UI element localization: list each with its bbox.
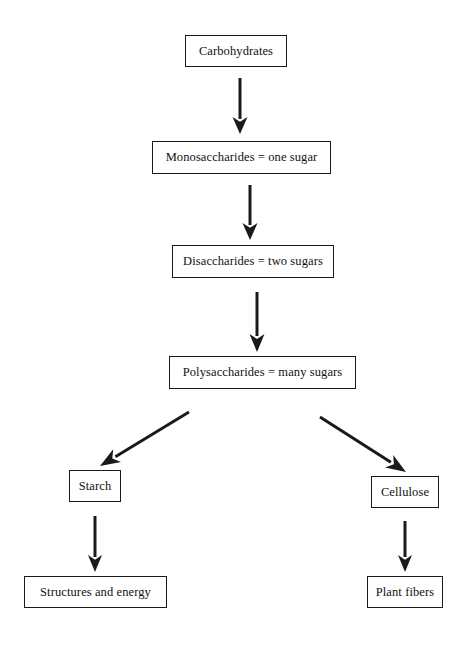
arrow-head [385, 455, 406, 472]
flowchart-edges-layer [0, 0, 468, 648]
node-label-structures-and-energy: Structures and energy [38, 586, 153, 599]
arrow-shaft [115, 412, 189, 457]
node-starch: Starch [69, 470, 121, 502]
node-label-polysaccharides: Polysaccharides = many sugars [181, 366, 345, 379]
arrow-head [398, 555, 412, 572]
node-structures-and-energy: Structures and energy [24, 576, 167, 608]
arrow-head [250, 334, 265, 352]
flowchart-canvas: CarbohydratesMonosaccharides = one sugar… [0, 0, 468, 648]
node-plant-fibers: Plant fibers [367, 576, 443, 608]
node-cellulose: Cellulose [371, 476, 439, 508]
arrow-head [233, 117, 248, 134]
node-label-plant-fibers: Plant fibers [374, 586, 436, 599]
node-label-starch: Starch [77, 480, 114, 493]
edge-polysaccharides-to-starch [100, 412, 189, 466]
arrow-head [88, 555, 102, 572]
edge-cellulose-to-plant-fibers [398, 521, 412, 572]
node-disaccharides: Disaccharides = two sugars [172, 245, 334, 278]
node-monosaccharides: Monosaccharides = one sugar [152, 141, 331, 174]
edge-monosaccharides-to-disaccharides [243, 185, 258, 240]
node-label-carbohydrates: Carbohydrates [197, 45, 275, 58]
arrow-head [243, 223, 258, 240]
node-label-monosaccharides: Monosaccharides = one sugar [164, 151, 320, 164]
node-label-disaccharides: Disaccharides = two sugars [181, 255, 325, 268]
edge-carbohydrates-to-monosaccharides [233, 78, 248, 134]
arrow-shaft [320, 417, 391, 462]
node-polysaccharides: Polysaccharides = many sugars [169, 356, 356, 389]
node-label-cellulose: Cellulose [379, 486, 431, 499]
arrow-head [100, 449, 121, 466]
edge-starch-to-structures-and-energy [88, 516, 102, 572]
node-carbohydrates: Carbohydrates [185, 35, 287, 67]
edge-polysaccharides-to-cellulose [320, 417, 406, 472]
edge-disaccharides-to-polysaccharides [250, 292, 265, 352]
